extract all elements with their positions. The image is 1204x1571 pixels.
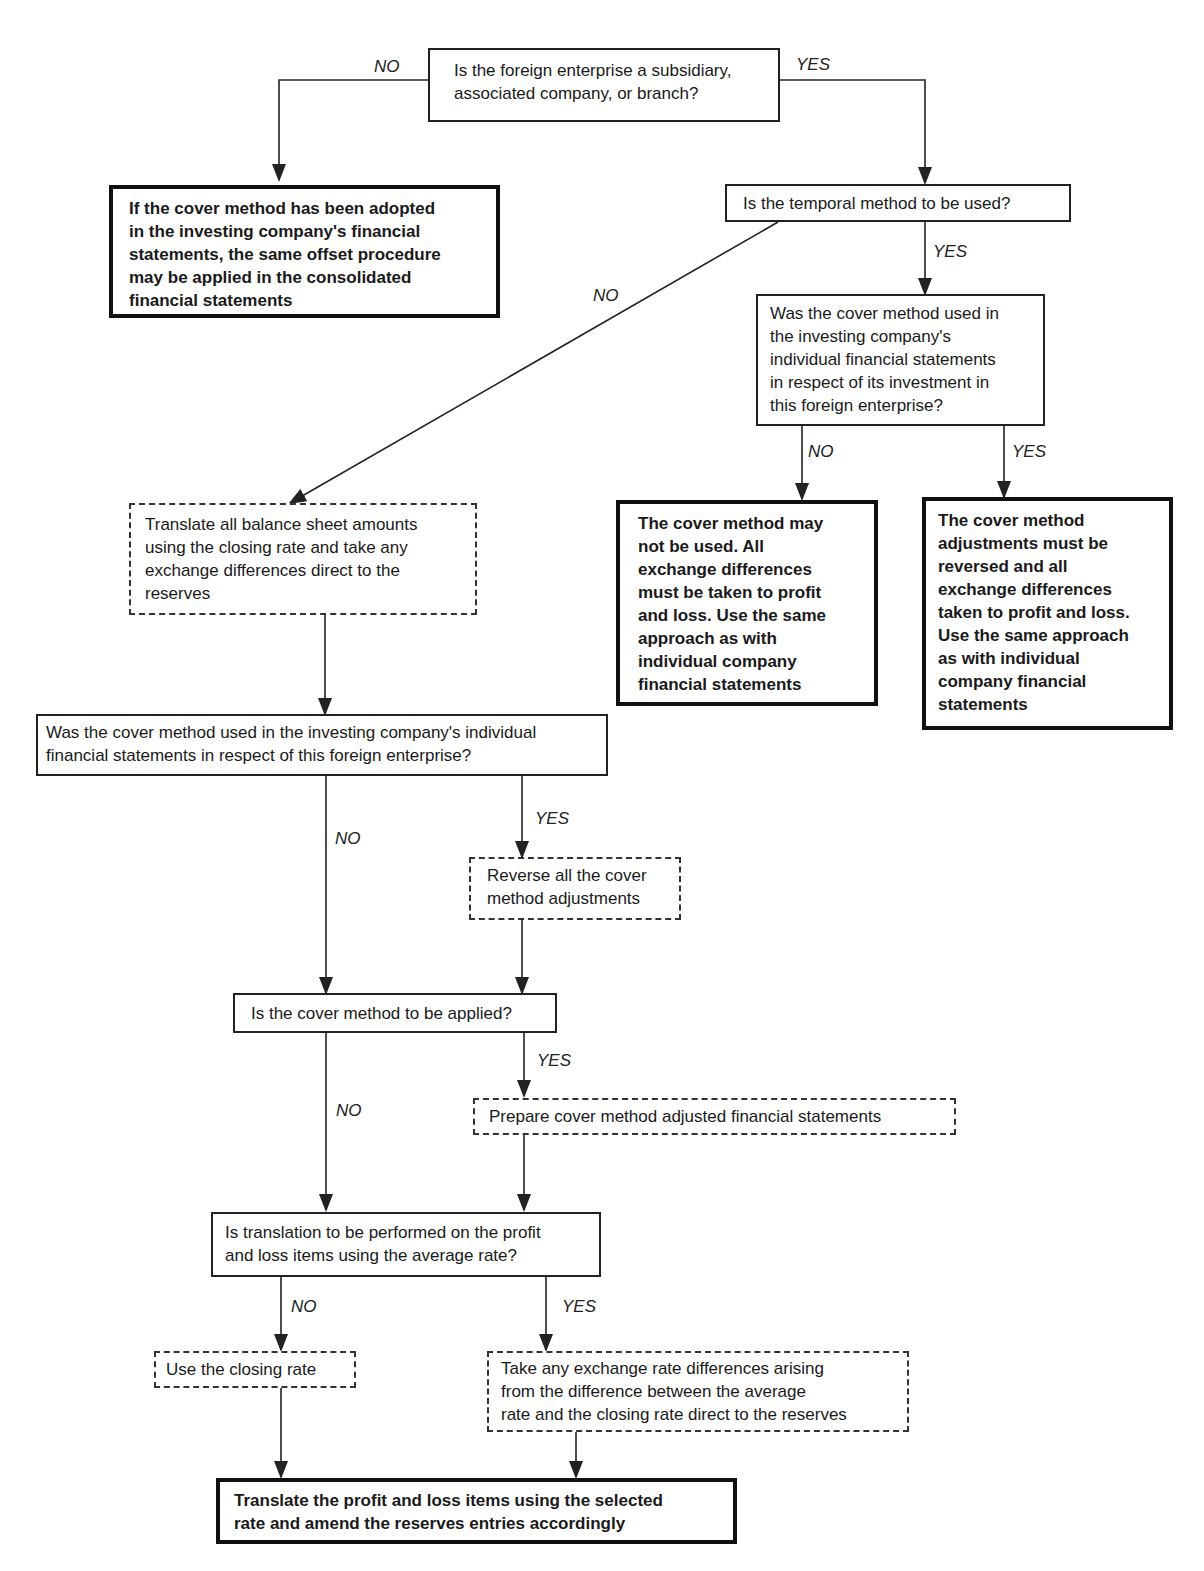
node-text: Is the foreign enterprise a subsidiary, … xyxy=(454,59,754,105)
node-text: Prepare cover method adjusted financial … xyxy=(489,1105,940,1128)
label-q1-yes: YES xyxy=(796,55,830,75)
node-text: The cover method may not be used. All ex… xyxy=(638,512,856,696)
node-text: Is the temporal method to be used? xyxy=(743,192,1053,215)
node-text: Reverse all the cover method adjustments xyxy=(487,864,663,910)
question-average-rate: Is translation to be performed on the pr… xyxy=(211,1212,601,1277)
question-cover-method-applied: Is the cover method to be applied? xyxy=(233,993,557,1033)
label-q4-yes: YES xyxy=(535,809,569,829)
node-text: Translate all balance sheet amounts usin… xyxy=(145,513,461,605)
action-use-closing-rate: Use the closing rate xyxy=(154,1351,356,1388)
node-text: Take any exchange rate differences arisi… xyxy=(501,1357,895,1426)
label-q1-no: NO xyxy=(374,57,400,77)
label-q5-no: NO xyxy=(336,1101,362,1121)
label-q2-yes: YES xyxy=(933,242,967,262)
connector-q1-no xyxy=(279,80,428,180)
label-q6-no: NO xyxy=(291,1297,317,1317)
node-text: Was the cover method used in the investi… xyxy=(770,302,1031,417)
result-offset-procedure: If the cover method has been adopted in … xyxy=(109,185,500,318)
question-temporal-method: Is the temporal method to be used? xyxy=(725,184,1071,222)
question-cover-method-individual-investment: Was the cover method used in the investi… xyxy=(756,294,1045,426)
node-text: Was the cover method used in the investi… xyxy=(46,721,598,767)
action-take-rate-differences: Take any exchange rate differences arisi… xyxy=(487,1351,909,1432)
action-translate-balance-sheet: Translate all balance sheet amounts usin… xyxy=(129,503,477,615)
node-text: Is the cover method to be applied? xyxy=(251,1002,539,1025)
question-foreign-enterprise-type: Is the foreign enterprise a subsidiary, … xyxy=(428,48,780,122)
result-cover-adjustments-reversed: The cover method adjustments must be rev… xyxy=(922,497,1173,730)
label-q3-yes: YES xyxy=(1012,442,1046,462)
node-text: Translate the profit and loss items usin… xyxy=(234,1489,719,1535)
node-text: Is translation to be performed on the pr… xyxy=(225,1221,587,1267)
result-cover-method-not-used: The cover method may not be used. All ex… xyxy=(616,500,878,706)
label-q3-no: NO xyxy=(808,442,834,462)
node-text: The cover method adjustments must be rev… xyxy=(938,509,1157,716)
label-q6-yes: YES xyxy=(562,1297,596,1317)
result-translate-pl-items: Translate the profit and loss items usin… xyxy=(216,1478,737,1544)
connector-q1-yes xyxy=(780,80,925,183)
flowchart-canvas: Is the foreign enterprise a subsidiary, … xyxy=(0,0,1204,1571)
question-cover-method-individual: Was the cover method used in the investi… xyxy=(36,714,608,776)
node-text: If the cover method has been adopted in … xyxy=(129,197,480,312)
action-prepare-adjusted-statements: Prepare cover method adjusted financial … xyxy=(473,1098,956,1135)
label-q5-yes: YES xyxy=(537,1051,571,1071)
label-q2-no: NO xyxy=(593,286,619,306)
action-reverse-adjustments: Reverse all the cover method adjustments xyxy=(469,857,681,920)
node-text: Use the closing rate xyxy=(166,1358,344,1381)
label-q4-no: NO xyxy=(335,829,361,849)
